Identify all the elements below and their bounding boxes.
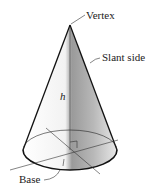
base-leader bbox=[44, 170, 60, 180]
vertex-leader bbox=[71, 15, 85, 24]
cone-diagram: Vertex Slant side h Base bbox=[0, 0, 154, 193]
slant-side-leader bbox=[90, 58, 100, 63]
slant-side-label: Slant side bbox=[102, 51, 145, 63]
vertex-label: Vertex bbox=[86, 9, 115, 21]
base-label: Base bbox=[19, 173, 41, 185]
height-label: h bbox=[60, 90, 66, 102]
